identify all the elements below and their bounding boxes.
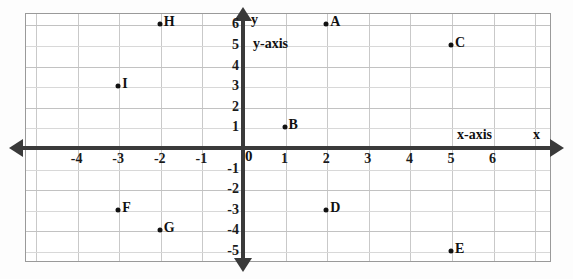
- x-tick-label: -3: [112, 152, 124, 166]
- gridline-horizontal: [26, 67, 550, 68]
- y-axis-variable-label: y: [251, 13, 258, 27]
- y-tick-label: -4: [227, 223, 239, 237]
- gridline-horizontal: [26, 108, 550, 109]
- x-tick-label: -2: [154, 152, 166, 166]
- data-point-label: H: [164, 15, 175, 29]
- x-axis-variable-label: x: [533, 128, 540, 142]
- gridline-vertical: [78, 14, 79, 261]
- y-tick-label: 6: [232, 17, 239, 31]
- gridline-vertical: [202, 14, 203, 261]
- y-axis-label: y-axis: [253, 37, 288, 51]
- x-tick-label: -1: [196, 152, 208, 166]
- coordinate-plane-figure: 0 -4-3-2-1123456 654321-1-2-3-4-5 x-axis…: [0, 0, 573, 279]
- data-point-marker: [157, 228, 162, 233]
- gridline-vertical: [36, 14, 37, 261]
- y-axis-down-arrow-icon: [234, 258, 252, 272]
- gridline-vertical: [369, 14, 370, 261]
- x-axis-left-arrow-icon: [9, 139, 23, 157]
- gridline-vertical: [161, 14, 162, 261]
- x-axis-right-arrow-icon: [550, 139, 564, 157]
- data-point-marker: [324, 22, 329, 27]
- data-point-label: E: [455, 242, 464, 256]
- gridline-horizontal: [26, 170, 550, 171]
- gridline-horizontal: [26, 87, 550, 88]
- gridline-vertical: [119, 14, 120, 261]
- data-point-label: I: [122, 77, 127, 91]
- x-tick-label: -4: [71, 152, 83, 166]
- gridline-horizontal: [26, 252, 550, 253]
- x-tick-label: 1: [281, 152, 288, 166]
- y-tick-label: 1: [232, 120, 239, 134]
- data-point-marker: [449, 249, 454, 254]
- gridline-horizontal: [26, 231, 550, 232]
- data-point-marker: [116, 207, 121, 212]
- y-tick-label: 3: [232, 79, 239, 93]
- gridline-vertical: [410, 14, 411, 261]
- x-tick-label: 2: [323, 152, 330, 166]
- y-tick-label: -5: [227, 244, 239, 258]
- x-tick-label: 4: [406, 152, 413, 166]
- gridline-vertical: [494, 14, 495, 261]
- x-tick-label: 5: [448, 152, 455, 166]
- data-point-label: G: [164, 221, 175, 235]
- x-axis-line: [12, 146, 553, 150]
- data-point-label: D: [330, 201, 340, 215]
- data-point-label: A: [330, 15, 340, 29]
- gridline-horizontal: [26, 25, 550, 26]
- y-tick-label: -2: [227, 182, 239, 196]
- y-tick-label: -3: [227, 203, 239, 217]
- x-axis-label: x-axis: [457, 128, 492, 142]
- x-tick-label: 6: [489, 152, 496, 166]
- origin-label: 0: [245, 149, 253, 164]
- gridline-vertical: [286, 14, 287, 261]
- data-point-label: C: [455, 36, 465, 50]
- x-tick-label: 3: [364, 152, 371, 166]
- data-point-label: B: [289, 118, 298, 132]
- data-point-marker: [449, 43, 454, 48]
- y-axis-line: [241, 18, 245, 266]
- data-point-marker: [116, 84, 121, 89]
- data-point-marker: [324, 207, 329, 212]
- data-point-marker: [157, 22, 162, 27]
- data-point-label: F: [122, 201, 131, 215]
- y-tick-label: -1: [227, 162, 239, 176]
- y-tick-label: 2: [232, 100, 239, 114]
- gridline-horizontal: [26, 211, 550, 212]
- gridline-vertical: [452, 14, 453, 261]
- gridline-horizontal: [26, 46, 550, 47]
- y-tick-label: 4: [232, 59, 239, 73]
- gridline-vertical: [327, 14, 328, 261]
- y-tick-label: 5: [232, 38, 239, 52]
- data-point-marker: [282, 125, 287, 130]
- gridline-horizontal: [26, 190, 550, 191]
